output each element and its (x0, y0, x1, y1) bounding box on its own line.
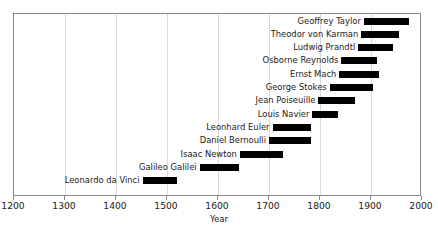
timeline-bar (143, 177, 177, 184)
timeline-bar (358, 44, 393, 51)
x-tick-label: 2000 (409, 200, 432, 212)
timeline-row: Leonardo da Vinci (14, 174, 420, 187)
bar-label: Leonhard Euler (206, 122, 269, 133)
timeline-bar (339, 71, 379, 78)
timeline-row: Ernst Mach (14, 68, 420, 81)
timeline-row: Osborne Reynolds (14, 54, 420, 67)
timeline-bar (273, 124, 312, 131)
x-axis-label: Year (0, 214, 438, 224)
timeline-row: Leonhard Euler (14, 121, 420, 134)
x-tick-label: 1400 (103, 200, 126, 212)
timeline-row: Geoffrey Taylor (14, 15, 420, 28)
bar-label: Theodor von Karman (271, 29, 359, 40)
x-tick-label: 1800 (307, 200, 330, 212)
bar-label: Jean Poiseuille (256, 95, 316, 106)
timeline-row: Galileo Galilei (14, 161, 420, 174)
bar-label: Isaac Newton (181, 149, 237, 160)
bar-label: Galileo Galilei (139, 162, 197, 173)
timeline-row: Daniel Bernoulli (14, 134, 420, 147)
timeline-bar (269, 137, 311, 144)
x-tick-label: 1300 (52, 200, 75, 212)
timeline-row: Louis Navier (14, 108, 420, 121)
timeline-bar (240, 151, 283, 158)
timeline-row: Theodor von Karman (14, 28, 420, 41)
timeline-bar (330, 84, 373, 91)
timeline-bar (200, 164, 240, 171)
timeline-row: Jean Poiseuille (14, 94, 420, 107)
bar-label: Ludwig Prandtl (293, 42, 355, 53)
bar-label: George Stokes (266, 82, 327, 93)
x-tick-label: 1200 (1, 200, 24, 212)
bar-label: Ernst Mach (290, 69, 336, 80)
bar-label: Louis Navier (258, 109, 310, 120)
timeline-row: Ludwig Prandtl (14, 41, 420, 54)
timeline-chart: Geoffrey TaylorTheodor von KarmanLudwig … (0, 0, 438, 231)
timeline-row: George Stokes (14, 81, 420, 94)
x-tick-label: 1900 (358, 200, 381, 212)
bar-label: Geoffrey Taylor (298, 16, 361, 27)
bar-label: Leonardo da Vinci (65, 175, 140, 186)
x-tick-label: 1600 (205, 200, 228, 212)
timeline-row: Isaac Newton (14, 148, 420, 161)
x-tick-label: 1700 (256, 200, 279, 212)
timeline-bar (318, 97, 355, 104)
bar-label: Daniel Bernoulli (200, 135, 266, 146)
timeline-bar (361, 31, 399, 38)
timeline-bar (364, 18, 409, 25)
x-tick-label: 1500 (154, 200, 177, 212)
bar-label: Osborne Reynolds (263, 55, 339, 66)
timeline-bar (312, 111, 338, 118)
plot-area: Geoffrey TaylorTheodor von KarmanLudwig … (13, 13, 421, 196)
timeline-bar (341, 57, 377, 64)
